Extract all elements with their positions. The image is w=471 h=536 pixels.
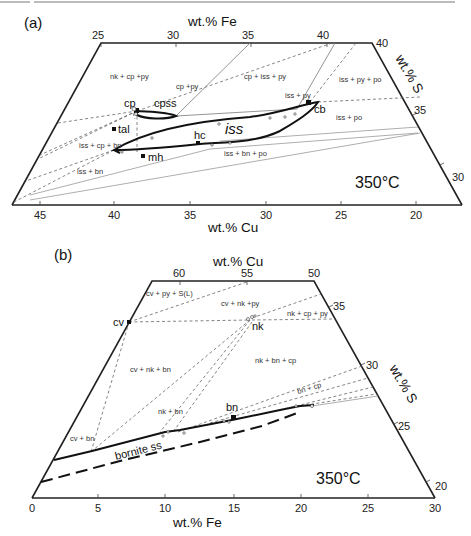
bn-label: bn (226, 401, 238, 413)
panel-b-cu-ticks: 60 55 50 (173, 267, 320, 285)
bornite-ss-lower-boundary (41, 412, 300, 482)
svg-text:45: 45 (34, 209, 46, 221)
svg-text:25: 25 (335, 209, 347, 221)
svg-text:20: 20 (295, 502, 307, 514)
tal-label: tal (118, 123, 130, 135)
svg-text:20: 20 (410, 209, 422, 221)
svg-text:20: 20 (435, 480, 447, 492)
panel-a-fe-ticks: 25 30 35 40 (92, 29, 329, 47)
phase-diagram-figure: (a) wt.% Fe 25 30 35 40 45 40 35 30 (0, 0, 471, 536)
panel-b-s-ticks: 35 30 25 20 (329, 300, 447, 492)
field-nk-cp-py: nk + cp +py (110, 72, 149, 81)
hc-label: hc (194, 129, 206, 141)
svg-text:35: 35 (242, 29, 254, 41)
field-iss-py: iss + py (285, 91, 311, 100)
svg-text:40: 40 (376, 37, 388, 49)
field-cv-nk-bn: cv + nk + bn (130, 365, 171, 374)
panel-b-frame (32, 281, 435, 498)
cb-point (306, 100, 311, 105)
field-nk-bn: nk + bn (158, 407, 183, 416)
iss-label: iss (225, 120, 244, 137)
cpss-label: cpss (154, 97, 177, 109)
nk-label: nk (252, 320, 264, 332)
panel-a-cu-axis-title: wt.% Cu (207, 220, 258, 235)
svg-text:60: 60 (173, 267, 185, 279)
field-bn-cp: bn + cp (296, 380, 322, 395)
tal-point (112, 127, 116, 131)
field-iss-po: iss + po (336, 113, 362, 122)
svg-text:55: 55 (241, 267, 253, 279)
field-cv-nk-py: cv + nk +py (221, 299, 260, 308)
field-nk-cp-py: nk + cp + py (287, 309, 328, 318)
field-cp-py: cp +py (176, 82, 199, 91)
field-iss-py-po: iss + py + po (339, 75, 382, 84)
svg-text:25: 25 (362, 502, 374, 514)
cpss-field-boundary (137, 111, 176, 119)
mh-point (141, 154, 145, 158)
svg-text:5: 5 (95, 502, 101, 514)
svg-text:30: 30 (260, 209, 272, 221)
svg-text:50: 50 (308, 267, 320, 279)
panel-b-fe-ticks: 0 5 10 15 20 25 30 (29, 494, 441, 514)
panel-a-cu-ticks: 45 40 35 30 25 20 (34, 201, 422, 221)
svg-text:25: 25 (398, 420, 410, 432)
field-cv-bn: cv + bn (70, 434, 94, 443)
svg-text:15: 15 (228, 502, 240, 514)
cb-label: cb (314, 103, 326, 115)
svg-text:25: 25 (92, 29, 104, 41)
svg-text:30: 30 (452, 171, 464, 183)
panel-a-fe-axis-title: wt.% Fe (187, 14, 237, 29)
panel-b-temperature: 350°C (316, 470, 361, 487)
bn-point (231, 415, 236, 420)
svg-text:35: 35 (333, 300, 345, 312)
bornite-ss-label: bornite ss (114, 439, 164, 462)
field-cv-py-sl: cv + py + S(L) (146, 289, 193, 298)
svg-text:10: 10 (159, 502, 171, 514)
field-nk-bn-cp: nk + bn + cp (255, 356, 296, 365)
panel-b-label: (b) (54, 246, 72, 263)
panel-b-fe-axis-title: wt.% Fe (172, 515, 222, 530)
field-cp-iss-py: cp + iss + py (244, 72, 286, 81)
cp-label: cp (124, 97, 136, 109)
svg-text:30: 30 (167, 29, 179, 41)
field-iss-cp-bn: iss + cp + bn (79, 141, 122, 150)
field-iss-bn-po: iss + bn + po (224, 149, 267, 158)
svg-text:30: 30 (366, 359, 378, 371)
panel-b: (b) wt.% Cu 60 55 50 0 5 10 15 20 25 30 (29, 246, 447, 530)
svg-text:40: 40 (317, 29, 329, 41)
panel-b-cu-axis-title: wt.% Cu (212, 254, 263, 269)
svg-text:35: 35 (414, 104, 426, 116)
panel-b-s-axis-title: wt.% S (386, 361, 420, 406)
cv-label: cv (113, 316, 125, 328)
panel-a-temperature: 350°C (355, 174, 400, 191)
cv-point (127, 320, 131, 324)
panel-a-s-ticks: 40 35 30 (376, 37, 464, 183)
svg-text:30: 30 (429, 502, 441, 514)
mh-label: mh (148, 151, 163, 163)
svg-text:40: 40 (108, 209, 120, 221)
svg-text:35: 35 (184, 209, 196, 221)
svg-text:0: 0 (29, 502, 35, 514)
panel-b-phase-points (127, 315, 314, 437)
panel-a: (a) wt.% Fe 25 30 35 40 45 40 35 30 (12, 14, 464, 235)
field-iss-bn: iss + bn (77, 167, 103, 176)
panel-a-label: (a) (24, 14, 42, 31)
hc-point (196, 141, 200, 145)
